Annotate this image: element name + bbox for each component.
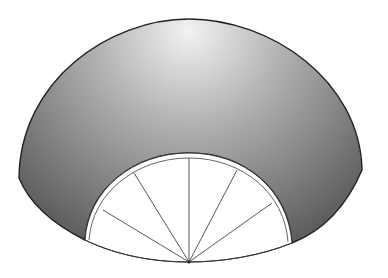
fan-diagram bbox=[0, 0, 388, 278]
fan-svg bbox=[0, 0, 388, 278]
pivot-point bbox=[187, 260, 190, 263]
